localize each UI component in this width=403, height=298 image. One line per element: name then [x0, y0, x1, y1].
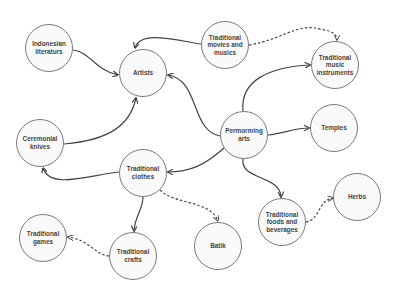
edge-traditional-clothes-to-ceremonial-knives — [43, 168, 119, 180]
edge-traditional-clothes-to-traditional-crafts — [134, 197, 143, 231]
edge-traditional-foods-and-beverages-to-herbs — [306, 198, 333, 222]
edge-ceremonial-knives-to-artists — [64, 98, 136, 144]
edge-indonesian-literaturs-to-artists — [73, 50, 118, 75]
node-label: Traditional games — [27, 230, 59, 245]
edge-traditional-movies-and-musics-to-artists — [135, 38, 201, 48]
node-label: Traditional clothes — [127, 165, 159, 180]
node-label: Traditional foods and beverages — [266, 211, 298, 234]
node-indonesian-literaturs[interactable]: Indonesian literaturs — [25, 24, 73, 72]
concept-map-canvas: Indonesian literatursArtistsTraditional … — [0, 0, 403, 298]
node-batik[interactable]: Batik — [194, 222, 242, 270]
node-label: Traditional music instruments — [317, 54, 354, 77]
node-label: Batik — [210, 242, 226, 250]
node-traditional-foods-and-beverages[interactable]: Traditional foods and beverages — [258, 198, 306, 246]
node-label: Indonesian literaturs — [32, 40, 66, 55]
node-ceremonial-knives[interactable]: Ceremonial knives — [16, 119, 64, 167]
node-traditional-music-instruments[interactable]: Traditional music instruments — [311, 41, 359, 89]
node-traditional-games[interactable]: Traditional games — [19, 214, 67, 262]
node-permorming-arts[interactable]: Permorming arts — [220, 111, 268, 159]
node-label: Traditional crafts — [117, 248, 149, 263]
edge-permorming-arts-to-traditional-foods-and-beverages — [243, 159, 281, 197]
node-label: Permorming arts — [225, 127, 263, 142]
node-traditional-crafts[interactable]: Traditional crafts — [109, 232, 157, 280]
node-traditional-movies-and-musics[interactable]: Traditional movies and musics — [201, 21, 249, 69]
edge-permorming-arts-to-traditional-clothes — [168, 148, 224, 172]
edge-traditional-crafts-to-traditional-games — [68, 237, 109, 256]
node-label: Ceremonial knives — [23, 135, 58, 150]
node-label: Traditional movies and musics — [207, 34, 242, 57]
edge-permorming-arts-to-temples — [268, 128, 309, 135]
node-label: Herbs — [348, 193, 366, 201]
edge-permorming-arts-to-traditional-music-instruments — [243, 65, 310, 111]
node-temples[interactable]: Temples — [310, 104, 358, 152]
edge-traditional-clothes-to-batik — [160, 190, 218, 221]
node-artists[interactable]: Artists — [119, 49, 167, 97]
node-herbs[interactable]: Herbs — [333, 173, 381, 221]
node-label: Artists — [133, 69, 153, 77]
edge-permorming-arts-to-artists — [168, 75, 220, 136]
node-label: Temples — [321, 124, 346, 132]
node-traditional-clothes[interactable]: Traditional clothes — [119, 149, 167, 197]
